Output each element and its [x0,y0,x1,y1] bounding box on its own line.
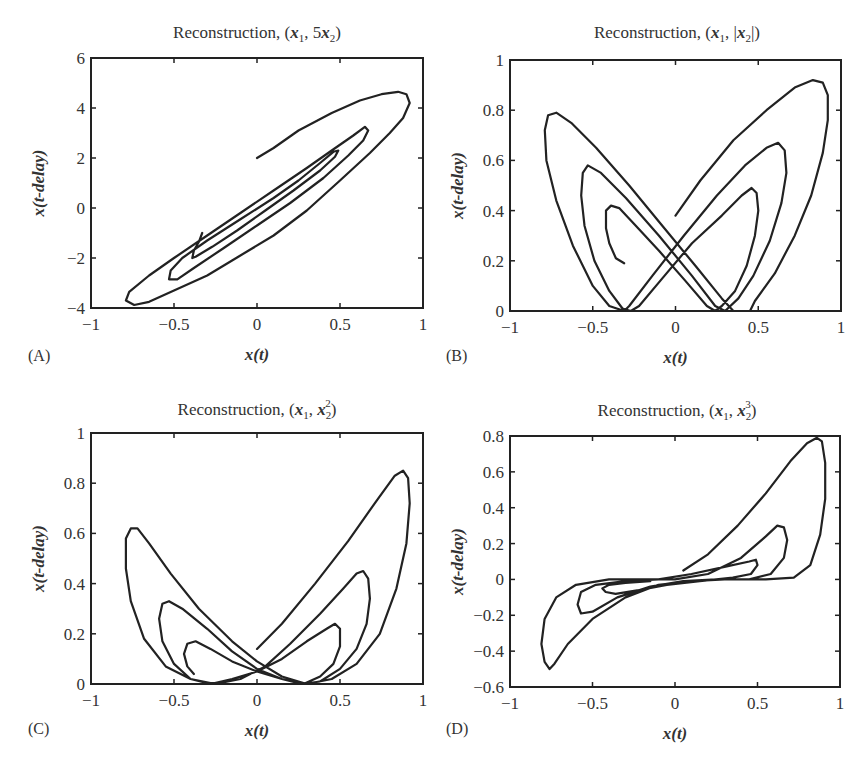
panel-label: (C) [28,720,49,738]
y-tick-label: 1 [496,51,505,70]
y-tick-label: −0.6 [473,678,504,697]
y-tick-label: 0.6 [483,151,504,170]
panel-d: Reconstruction, (x1, x23)−1−0.500.51−0.6… [446,398,844,743]
x-tick-label: 1 [419,315,428,334]
y-tick-label: −4 [67,299,86,318]
axes-frame [91,433,423,684]
trajectory-curve [126,471,410,684]
x-tick-label: 0.5 [748,318,769,337]
panel-title: Reconstruction, (x1, |x2|) [594,23,760,44]
y-axis-label: x(t-delay) [29,525,48,593]
y-tick-label: −0.2 [473,606,504,625]
x-tick-label: −0.5 [577,694,608,713]
y-tick-label: 4 [77,99,86,118]
y-tick-label: 0.2 [483,535,504,554]
panel-c: Reconstruction, (x1, x22)−1−0.500.5100.2… [28,397,427,740]
x-tick-label: 1 [836,694,845,713]
axes-frame [510,436,840,687]
y-tick-label: 0.2 [64,625,85,644]
y-tick-label: 0 [77,675,86,694]
y-tick-label: 0.6 [64,524,85,543]
trajectory-curve [541,438,825,669]
panel-label: (A) [28,347,50,365]
y-tick-label: 2 [77,149,86,168]
y-tick-label: 0.8 [64,474,85,493]
x-tick-label: −0.5 [159,315,190,334]
y-tick-label: 0.6 [483,463,504,482]
y-axis-label: x(t-delay) [448,528,467,596]
y-axis-label: x(t-delay) [448,152,467,220]
x-tick-label: 0.5 [747,694,768,713]
x-tick-label: 0 [671,318,680,337]
y-tick-label: −2 [67,249,85,268]
y-tick-label: 0.2 [483,252,504,271]
y-tick-label: 0 [496,570,505,589]
y-tick-label: 0.4 [483,202,505,221]
x-tick-label: 1 [837,318,846,337]
panel-label: (D) [446,720,468,738]
panel-title: Reconstruction, (x1, x22) [178,397,337,421]
y-tick-label: −0.4 [473,642,504,661]
panel-title: Reconstruction, (x1, 5x2) [173,23,341,44]
panel-b: Reconstruction, (x1, |x2|)−1−0.500.5100.… [446,23,845,367]
x-axis-label: x(t) [244,345,270,364]
panel-title: Reconstruction, (x1, x23) [598,398,757,422]
y-tick-label: 0.4 [64,575,86,594]
figure: Reconstruction, (x1, 5x2)−1−0.500.51−4−2… [0,0,866,768]
trajectory-curve [126,92,410,305]
y-tick-label: 6 [77,49,86,68]
x-tick-label: 1 [419,691,428,710]
x-tick-label: 0 [671,694,680,713]
y-axis-label: x(t-delay) [29,149,48,217]
x-axis-label: x(t) [244,721,270,740]
y-tick-label: 0.4 [483,499,505,518]
trajectory-curve [545,80,828,311]
y-tick-label: 0.8 [483,427,504,446]
x-tick-label: −0.5 [159,691,190,710]
x-tick-label: 0 [253,315,262,334]
x-tick-label: 0 [253,691,262,710]
x-tick-label: −0.5 [577,318,608,337]
panel-label: (B) [446,347,467,365]
x-tick-label: 0.5 [329,315,350,334]
y-tick-label: 1 [77,424,86,443]
x-axis-label: x(t) [662,724,688,743]
axes-frame [510,60,841,311]
y-tick-label: 0 [77,199,86,218]
x-axis-label: x(t) [662,348,688,367]
y-tick-label: 0 [496,302,505,321]
panel-a: Reconstruction, (x1, 5x2)−1−0.500.51−4−2… [28,23,427,365]
y-tick-label: 0.8 [483,101,504,120]
x-tick-label: 0.5 [329,691,350,710]
